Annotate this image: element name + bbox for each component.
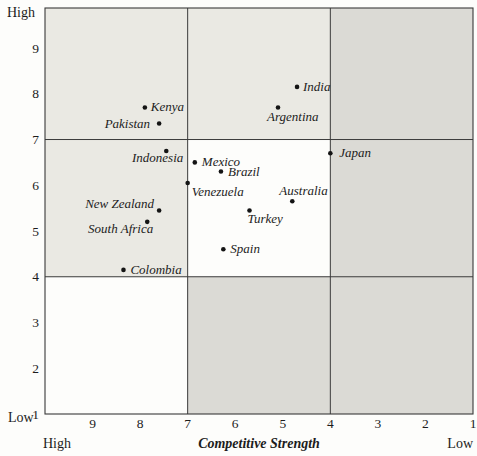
data-label-india: India xyxy=(302,79,331,94)
x-tick-label: 2 xyxy=(422,416,429,431)
data-label-colombia: Colombia xyxy=(130,262,182,277)
data-label-australia: Australia xyxy=(278,183,328,198)
y-tick-label: 3 xyxy=(32,315,39,330)
y-tick-label: 5 xyxy=(32,224,39,239)
y-tick-label: 6 xyxy=(32,178,39,193)
y-tick-label: 4 xyxy=(32,269,39,284)
data-point-venezuela xyxy=(185,181,190,186)
data-point-brazil xyxy=(219,169,224,174)
x-tick-label: 8 xyxy=(137,416,144,431)
x-tick-label: 6 xyxy=(232,416,239,431)
data-label-south-africa: South Africa xyxy=(88,221,154,236)
data-label-kenya: Kenya xyxy=(150,99,185,114)
competitive-strength-scatter-chart: 987654321HighLow987654321HighLowCompetit… xyxy=(0,0,477,456)
data-point-colombia xyxy=(121,268,126,273)
data-label-brazil: Brazil xyxy=(228,164,260,179)
y-tick-label: 8 xyxy=(32,86,39,101)
y-axis-low-label: Low xyxy=(8,410,35,425)
y-tick-label: 7 xyxy=(32,132,39,147)
y-axis-high-label: High xyxy=(7,5,35,20)
x-tick-label: 3 xyxy=(375,416,382,431)
x-axis-title: Competitive Strength xyxy=(198,436,320,451)
data-point-mexico xyxy=(193,160,198,165)
x-tick-label: 5 xyxy=(279,416,286,431)
x-axis-low-label: Low xyxy=(447,436,474,451)
data-point-australia xyxy=(290,199,295,204)
data-point-pakistan xyxy=(157,121,162,126)
x-tick-label: 1 xyxy=(470,416,477,431)
x-tick-label: 9 xyxy=(89,416,96,431)
data-point-kenya xyxy=(143,105,148,110)
data-label-argentina: Argentina xyxy=(266,109,319,124)
zone-cell xyxy=(330,8,473,140)
x-axis: 987654321HighLowCompetitive Strength xyxy=(43,416,476,451)
y-tick-label: 2 xyxy=(32,361,39,376)
y-axis: 987654321HighLow xyxy=(7,5,39,425)
data-label-pakistan: Pakistan xyxy=(104,116,151,131)
x-tick-label: 4 xyxy=(327,416,334,431)
data-label-indonesia: Indonesia xyxy=(131,150,184,165)
y-tick-label: 9 xyxy=(32,41,39,56)
data-label-spain: Spain xyxy=(230,241,260,256)
data-label-venezuela: Venezuela xyxy=(192,184,244,199)
data-label-turkey: Turkey xyxy=(247,211,283,226)
data-label-japan: Japan xyxy=(339,145,371,160)
data-point-japan xyxy=(328,151,333,156)
data-label-new-zealand: New Zealand xyxy=(84,196,154,211)
zone-cell xyxy=(45,277,188,414)
zone-cell xyxy=(330,277,473,414)
data-point-spain xyxy=(221,247,226,252)
data-point-india xyxy=(295,85,300,90)
ge-matrix-figure: 987654321HighLow987654321HighLowCompetit… xyxy=(0,0,477,456)
data-point-new-zealand xyxy=(157,208,162,213)
zone-cell xyxy=(188,277,331,414)
x-axis-high-label: High xyxy=(43,436,71,451)
x-tick-label: 7 xyxy=(184,416,191,431)
